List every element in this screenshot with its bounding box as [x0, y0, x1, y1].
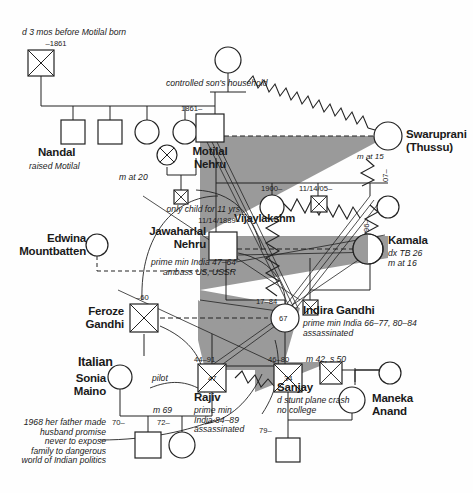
symbol-jawaharlal: [209, 232, 237, 260]
label-maneka: Maneka Anand: [372, 392, 413, 418]
symbol-sonia-son: [135, 432, 161, 458]
label-96: 96–: [362, 219, 371, 232]
label-79: 79–: [259, 426, 272, 435]
symbol-kamala: [353, 234, 383, 264]
label-edwina: Edwina Mountbatten: [10, 232, 86, 258]
symbol-edwina: [86, 234, 108, 256]
label-dash-1861: –1861: [26, 39, 86, 48]
label-only-child: only child for 11 yrs: [120, 205, 240, 215]
symbol-swaruprani: [374, 122, 402, 150]
label-pilot: pilot: [152, 374, 168, 384]
symbol-motilal-father: [28, 50, 54, 76]
label-1900: 1900–: [261, 184, 282, 193]
symbol-maneka-father: [320, 362, 342, 384]
label-indira-dates: 17–84: [256, 297, 277, 306]
label-sanjay-note: d stunt plane crash no college: [277, 396, 350, 415]
label-rajiv-dates: 44–91: [194, 355, 215, 364]
symbol-maneka-mother: [379, 362, 401, 384]
symbol-feroze: [130, 304, 158, 332]
label-07: 07–: [381, 169, 390, 182]
label-jnehru-note: prime min India 47–64 ambass US, USSR: [110, 258, 236, 277]
label-motilal: Motilal Nehru: [172, 145, 248, 171]
label-controlled-household: controlled son's household: [166, 79, 268, 89]
symbol-motilal: [196, 114, 224, 142]
symbol-sibling2: [98, 120, 122, 144]
label-sanjay: Sanjay: [277, 382, 313, 394]
label-raised-motilal: raised Motilal: [29, 162, 80, 172]
symbol-sibling4: [173, 120, 197, 144]
label-rajiv-age: 47: [208, 374, 216, 383]
label-jawaharlal: Jawaharlal Nehru: [128, 225, 206, 251]
label-m69: m 69: [153, 406, 172, 416]
label-1861: 1861–: [181, 104, 202, 113]
label-sonia-note: 1968 her father made husband promise nev…: [2, 418, 106, 466]
symbol-motilal-mother: [215, 47, 241, 73]
label-d-3-mos: d 3 mos before Motilal born: [22, 28, 126, 38]
label-vijaylakshm: Vijaylakshm: [234, 213, 295, 225]
symbol-child-07: [377, 196, 399, 218]
label-m-at-15: m at 15: [357, 152, 384, 162]
label-kamala: Kamala: [388, 235, 428, 247]
label-indira-age: 67: [279, 314, 287, 323]
label-swaruprani: Swaruprani (Thussu): [406, 128, 467, 154]
label-m42-s50: m 42, s 50: [306, 355, 346, 365]
symbol-first-child: [174, 190, 188, 204]
label-kamala-note: dx TB 26 m at 16: [388, 249, 422, 268]
label-72: 72–: [157, 418, 170, 427]
label-italian: Italian: [78, 357, 113, 369]
label-feroze: Feroze Gandhi: [58, 305, 124, 331]
label-jnehru-dob: 11/14/1889–: [140, 216, 240, 225]
label-indira: Indira Gandhi: [303, 305, 375, 317]
symbol-sonia-daughter: [169, 432, 195, 458]
symbol-sibling3: [135, 120, 159, 144]
label-sonia: Sonia Maino: [50, 372, 106, 398]
label-m-at-20: m at 20: [119, 173, 148, 183]
label-nandal: Nandal: [38, 147, 75, 159]
symbol-maneka-son: [276, 438, 300, 462]
label-rajiv: Rajiv: [194, 392, 221, 404]
label-sanjay-dates: 46–80: [268, 355, 289, 364]
symbol-nandal: [61, 120, 85, 144]
genogram-canvas: d 3 mos before Motilal born –1861 Nandal…: [0, 0, 473, 493]
label-rajiv-note: prime min India 84–89 assassinated: [194, 406, 244, 435]
label-70: 70–: [112, 418, 125, 427]
label-indira-note: prime min India 66–77, 80–84 assassinate…: [303, 319, 417, 338]
label-feroze-death: –60: [136, 293, 149, 302]
symbol-child-1905: [311, 196, 327, 212]
label-11-14-05: 11/14/05–: [299, 184, 332, 193]
